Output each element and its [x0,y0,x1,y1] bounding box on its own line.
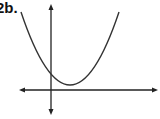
y-axis-up-arrow-icon [49,4,54,10]
x-axis [19,88,158,93]
y-axis [49,4,54,115]
y-axis-down-arrow-icon [49,109,54,115]
parabola-graph [0,0,160,119]
parabola-curve [21,12,119,85]
x-axis-right-arrow-icon [152,88,158,93]
x-axis-left-arrow-icon [19,88,25,93]
